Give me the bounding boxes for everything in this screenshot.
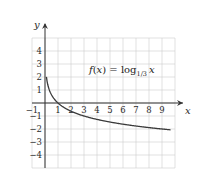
log-base: 1/3 (137, 70, 147, 78)
x-tick-label: 8 (146, 105, 151, 115)
y-axis-label: y (33, 19, 40, 30)
log-arg: x (149, 64, 155, 75)
y-tick-label: 1 (37, 85, 42, 95)
y-tick-label: −3 (29, 137, 42, 147)
y-tick-label: 3 (37, 59, 42, 69)
x-tick-label: 3 (81, 105, 86, 115)
log-function-graph: −11234567894321−1−2−3−4 x y f(x) = log1/… (0, 0, 200, 182)
x-tick-label: 5 (107, 105, 112, 115)
y-tick-label: −2 (29, 124, 42, 134)
y-tick-label: 2 (37, 72, 42, 82)
y-tick-label: −1 (29, 111, 42, 121)
x-tick-label: 4 (94, 105, 99, 115)
function-label: f(x) = log1/3x (88, 64, 155, 78)
x-tick-label: 1 (55, 105, 60, 115)
function-eq: ) = log (102, 64, 137, 75)
y-tick-label: 4 (37, 46, 42, 56)
x-tick-label: 6 (120, 105, 125, 115)
y-tick-label: −4 (29, 150, 42, 160)
x-tick-label: 9 (159, 105, 164, 115)
axes (32, 23, 183, 168)
x-axis-label: x (185, 105, 191, 116)
x-tick-label: 7 (133, 105, 138, 115)
